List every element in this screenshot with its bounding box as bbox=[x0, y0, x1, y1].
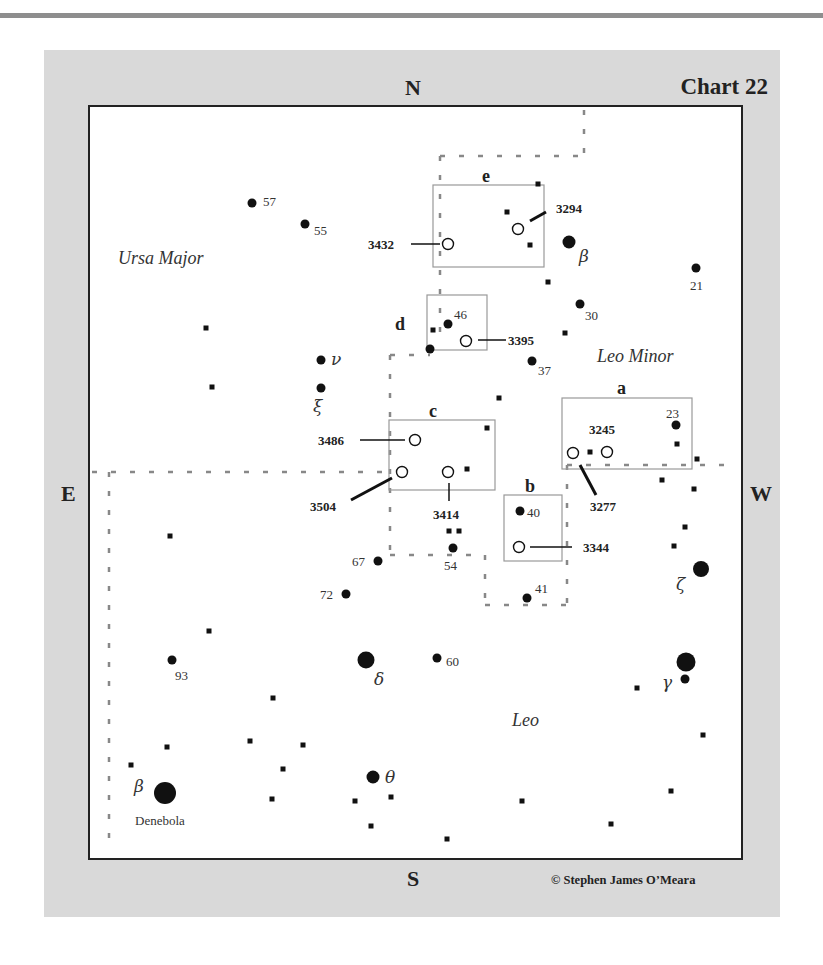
constellation-name: Ursa Major bbox=[118, 248, 205, 268]
labeled-stars: 5755β21304637νξ234054677241ζ93δ60γθβDene… bbox=[133, 194, 709, 828]
star-37 bbox=[528, 357, 537, 366]
galaxy-ngc-3294 bbox=[513, 224, 524, 235]
star-label: 30 bbox=[585, 308, 598, 323]
galaxy-label: 3395 bbox=[508, 333, 535, 348]
galaxy-label: 3245 bbox=[589, 422, 616, 437]
star-93 bbox=[168, 656, 177, 665]
star-label: 93 bbox=[175, 668, 188, 683]
faint-star bbox=[447, 529, 452, 534]
detail-box-label: b bbox=[525, 476, 535, 496]
constellation-name: Leo Minor bbox=[596, 346, 674, 366]
galaxy-leader-line bbox=[351, 478, 392, 500]
faint-star bbox=[369, 824, 374, 829]
faint-star bbox=[281, 767, 286, 772]
star-label: δ bbox=[374, 669, 384, 689]
galaxy-ngc-3432 bbox=[443, 239, 454, 250]
star-55 bbox=[301, 220, 310, 229]
faint-star bbox=[635, 686, 640, 691]
galaxy-label: 3294 bbox=[556, 201, 583, 216]
faint-star bbox=[445, 837, 450, 842]
galaxy-label: 3277 bbox=[590, 499, 617, 514]
faint-star bbox=[588, 450, 593, 455]
faint-stars bbox=[129, 182, 706, 842]
faint-star bbox=[431, 328, 436, 333]
faint-star bbox=[672, 544, 677, 549]
faint-star bbox=[389, 795, 394, 800]
faint-star bbox=[301, 743, 306, 748]
faint-star bbox=[165, 745, 170, 750]
star-label: 41 bbox=[535, 581, 548, 596]
star-label: 46 bbox=[454, 307, 468, 322]
detail-box-d bbox=[427, 295, 487, 350]
star-41 bbox=[523, 594, 532, 603]
faint-star bbox=[270, 797, 275, 802]
faint-star bbox=[546, 280, 551, 285]
galaxy-ngc-3414 bbox=[443, 467, 454, 478]
star-label: γ bbox=[662, 672, 673, 692]
faint-star bbox=[692, 487, 697, 492]
galaxy-ngc-3486 bbox=[410, 435, 421, 446]
galaxy-ngc-3395 bbox=[461, 336, 472, 347]
galaxy-label: 3504 bbox=[310, 499, 337, 514]
star-xi bbox=[317, 384, 326, 393]
faint-star bbox=[485, 426, 490, 431]
faint-star bbox=[129, 763, 134, 768]
faint-star bbox=[248, 739, 253, 744]
star-gamma-b bbox=[681, 675, 690, 684]
star-label: ζ bbox=[676, 574, 687, 594]
detail-box-label: a bbox=[617, 378, 626, 398]
star-label: 72 bbox=[320, 587, 333, 602]
star-label: β bbox=[133, 776, 144, 796]
star-46 bbox=[444, 320, 453, 329]
galaxy-label: 3486 bbox=[318, 433, 345, 448]
faint-star bbox=[271, 696, 276, 701]
faint-star bbox=[536, 182, 541, 187]
constellation-name: Leo bbox=[511, 710, 539, 730]
star-54 bbox=[449, 544, 458, 553]
star-60 bbox=[433, 654, 442, 663]
star-label: θ bbox=[385, 767, 395, 787]
detail-box-label: c bbox=[429, 401, 437, 421]
star-nu bbox=[317, 356, 326, 365]
star-theta bbox=[367, 771, 380, 784]
faint-star bbox=[204, 326, 209, 331]
star-name-label: Denebola bbox=[135, 813, 185, 828]
faint-star bbox=[520, 799, 525, 804]
star-67 bbox=[374, 557, 383, 566]
faint-star bbox=[505, 210, 510, 215]
star-label: ν bbox=[331, 349, 341, 369]
faint-star bbox=[683, 525, 688, 530]
star-label: 40 bbox=[527, 505, 540, 520]
faint-star bbox=[457, 529, 462, 534]
star-gamma bbox=[677, 653, 696, 672]
star-beta-lmi bbox=[563, 236, 576, 249]
star-label: 21 bbox=[690, 278, 703, 293]
faint-star bbox=[497, 396, 502, 401]
detail-box-label: e bbox=[482, 166, 490, 186]
star-label: ξ bbox=[313, 396, 324, 416]
faint-star bbox=[353, 799, 358, 804]
star-23 bbox=[672, 421, 681, 430]
galaxy-label: 3414 bbox=[433, 507, 460, 522]
star-label: 60 bbox=[446, 654, 459, 669]
galaxy-ngc-3277 bbox=[568, 448, 579, 459]
detail-box-label: d bbox=[395, 314, 405, 334]
star-40 bbox=[516, 507, 525, 516]
star-21 bbox=[692, 264, 701, 273]
galaxies: 329434323395348635043414324532773344 bbox=[310, 201, 617, 555]
detail-box-c bbox=[389, 420, 495, 490]
faint-star bbox=[660, 478, 665, 483]
faint-star bbox=[210, 385, 215, 390]
galaxy-label: 3344 bbox=[583, 540, 610, 555]
galaxy-ngc-3504 bbox=[397, 467, 408, 478]
star-label: 54 bbox=[444, 558, 458, 573]
faint-star bbox=[168, 534, 173, 539]
star-beta-leo bbox=[154, 782, 176, 804]
star-label: β bbox=[578, 246, 589, 266]
star-label: 67 bbox=[352, 554, 366, 569]
faint-star bbox=[563, 331, 568, 336]
star-label: 55 bbox=[314, 223, 327, 238]
star-d-star bbox=[426, 345, 435, 354]
star-label: 37 bbox=[538, 363, 552, 378]
faint-star bbox=[669, 789, 674, 794]
